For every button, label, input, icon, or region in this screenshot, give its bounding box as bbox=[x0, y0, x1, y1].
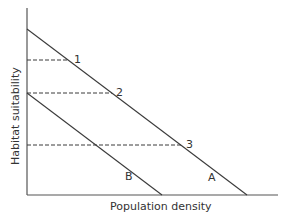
line-label-a: A bbox=[208, 171, 216, 184]
line-b bbox=[27, 93, 162, 195]
x-axis-label: Population density bbox=[110, 200, 212, 213]
line-label-b: B bbox=[125, 170, 133, 183]
point-label-3: 3 bbox=[186, 138, 193, 151]
diagram-canvas: 1 2 3 B A Population density Habitat sui… bbox=[0, 0, 290, 220]
point-label-1: 1 bbox=[74, 53, 81, 66]
y-axis-label: Habitat suitability bbox=[9, 67, 22, 165]
point-label-2: 2 bbox=[116, 86, 123, 99]
